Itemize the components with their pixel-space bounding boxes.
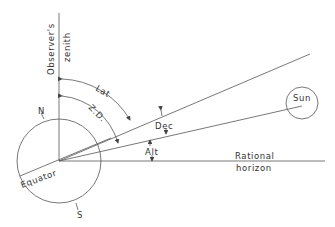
south-label: S [77, 210, 83, 220]
alt-label: Alt [145, 147, 158, 157]
horizon-label-1: Rational [235, 151, 275, 161]
dec-arrow-top [161, 110, 162, 116]
celestial-navigation-diagram: Observer's zenith Lat Z.D. N S Equator S… [0, 0, 335, 227]
equator-label: Equator [19, 168, 58, 190]
south-tick [76, 203, 78, 210]
zenith-label-1: Observer's [46, 23, 56, 75]
sun-label: Sun [293, 93, 311, 103]
horizon-label-2: horizon [236, 163, 272, 173]
equator-line [20, 138, 111, 176]
dec-label: Dec [155, 121, 173, 131]
sun-circle [286, 87, 318, 119]
zd-arc [62, 96, 118, 143]
zd-label: Z.D. [87, 102, 108, 123]
north-label: N [38, 106, 45, 116]
zenith-label-2: zenith [62, 32, 72, 62]
lat-label: Lat [94, 83, 112, 99]
